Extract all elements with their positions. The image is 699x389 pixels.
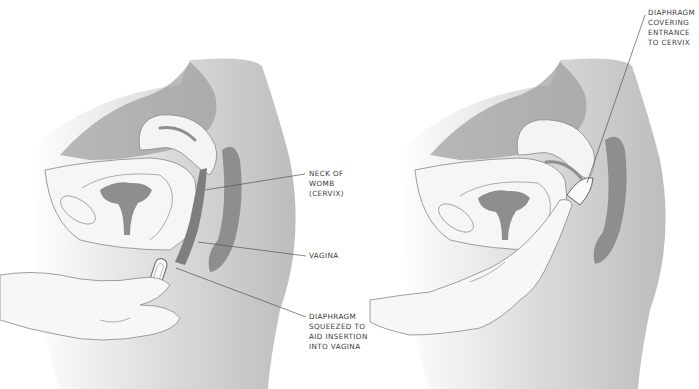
left-panel-illustration [0,58,296,389]
right-panel-illustration [370,58,666,389]
label-diaphragm-covering: DIAPHRAGM COVERING ENTRANCE TO CERVIX [648,8,695,48]
label-diaphragm-squeezed: DIAPHRAGM SQUEEZED TO AID INSERTION INTO… [309,312,368,352]
label-cervix: NECK OF WOMB (CERVIX) [309,169,344,199]
label-vagina: VAGINA [309,251,339,261]
